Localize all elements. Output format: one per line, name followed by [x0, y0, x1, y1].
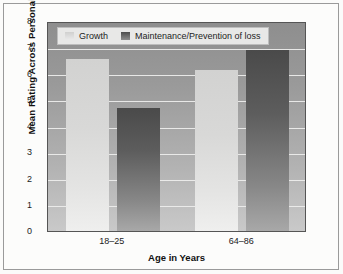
- legend-label: Growth: [79, 32, 108, 41]
- legend-label: Maintenance/Prevention of loss: [135, 32, 261, 41]
- bar-maintenance: [117, 108, 160, 231]
- maintenance-swatch: [121, 32, 130, 40]
- x-axis-tick-label: 64–86: [206, 236, 276, 246]
- y-axis-tick-label: 1: [6, 201, 32, 210]
- chart-figure: 876543210 Mean Rating Across Personal Go…: [0, 0, 343, 274]
- x-axis-tick-label: 18–25: [77, 236, 147, 246]
- y-axis-tick-label: 2: [6, 175, 32, 184]
- y-axis-title: Mean Rating Across Personal Goals: [26, 0, 37, 145]
- legend-entry: Growth: [65, 32, 108, 41]
- bar-growth: [195, 70, 238, 231]
- chart-legend: GrowthMaintenance/Prevention of loss: [57, 27, 269, 45]
- growth-swatch: [65, 32, 74, 40]
- bar-growth: [66, 59, 109, 231]
- legend-entry: Maintenance/Prevention of loss: [121, 32, 261, 41]
- bar-maintenance: [246, 50, 289, 231]
- y-axis-tick-label: 3: [6, 148, 32, 157]
- y-axis-tick-label: 0: [6, 227, 32, 236]
- plot-area: [47, 22, 306, 232]
- x-axis-title: Age in Years: [47, 252, 306, 263]
